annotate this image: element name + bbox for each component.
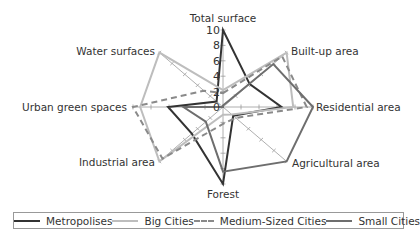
axis-label: Total surface bbox=[189, 12, 257, 24]
legend-item-metropolises[interactable]: Metropolises bbox=[14, 215, 112, 227]
tick-labels: 0246810 bbox=[206, 24, 220, 114]
axis-label: Forest bbox=[207, 188, 239, 200]
legend-item-medium-sized-cities[interactable]: Medium-Sized Cities bbox=[194, 215, 327, 227]
legend-swatch-big-cities bbox=[112, 220, 138, 222]
tick-label: 2 bbox=[213, 86, 220, 99]
axis-label: Built-up area bbox=[291, 45, 359, 57]
axis-label: Urban green spaces bbox=[22, 101, 127, 113]
legend-swatch-medium-sized-cities bbox=[194, 220, 214, 222]
legend: Metropolises Big Cities Medium-Sized Cit… bbox=[13, 212, 404, 229]
legend-label: Medium-Sized Cities bbox=[220, 215, 327, 227]
axis-label: Industrial area bbox=[79, 156, 155, 168]
legend-label: Big Cities bbox=[144, 215, 193, 227]
tick-label: 8 bbox=[213, 39, 220, 52]
legend-swatch-small-cities bbox=[326, 220, 352, 222]
tick-label: 10 bbox=[206, 24, 220, 37]
tick-label: 4 bbox=[213, 70, 220, 83]
tick-label: 0 bbox=[213, 101, 220, 114]
axis-label: Water surfaces bbox=[76, 45, 155, 57]
legend-label: Small Cities bbox=[358, 215, 420, 227]
radar-chart: Total surfaceBuilt-up areaResidential ar… bbox=[0, 0, 419, 210]
legend-item-small-cities[interactable]: Small Cities bbox=[326, 215, 420, 227]
axis-label: Residential area bbox=[316, 101, 401, 113]
tick-label: 6 bbox=[213, 55, 220, 68]
axis-label: Agricultural area bbox=[292, 157, 380, 169]
legend-label: Metropolises bbox=[46, 215, 112, 227]
legend-item-big-cities[interactable]: Big Cities bbox=[112, 215, 193, 227]
legend-swatch-metropolises bbox=[14, 220, 40, 222]
